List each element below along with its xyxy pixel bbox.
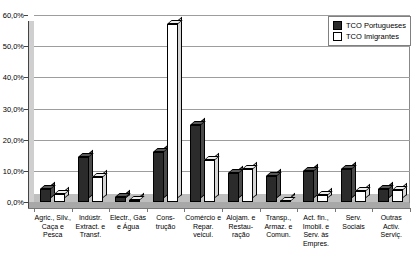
bar-face <box>40 189 51 202</box>
bar-face <box>190 125 201 202</box>
bar-face <box>378 189 389 202</box>
bar-face <box>204 160 215 202</box>
bar-cap <box>280 197 296 201</box>
x-axis-tick-label: Comércio e Repar. veicul. <box>182 214 224 240</box>
legend-label: TCO Imigrantes <box>346 32 399 41</box>
bar-cap <box>129 196 145 200</box>
x-axis-line <box>28 208 410 209</box>
y-axis-tick <box>24 15 28 16</box>
bar <box>280 201 291 202</box>
x-axis-tick-label: Alojam. e Restau- ração <box>220 214 262 240</box>
legend-item: TCO Imigrantes <box>333 31 406 42</box>
bar <box>266 176 277 202</box>
bar <box>228 173 239 202</box>
bar <box>167 24 178 202</box>
x-axis-tick-label: Act. fin., Imobil. e Serv. às Empres. <box>295 214 337 248</box>
x-axis-tick-label: Cons- trução <box>145 214 187 231</box>
legend-swatch-icon <box>333 32 342 41</box>
bar <box>204 160 215 202</box>
bar-face <box>228 173 239 202</box>
y-axis-tick-label: 0,0% <box>7 198 24 207</box>
y-axis-line <box>28 21 29 209</box>
y-axis-tick-label: 20,0% <box>3 135 24 144</box>
bar-group <box>40 15 78 202</box>
y-axis-tick <box>24 140 28 141</box>
x-axis-tick <box>109 208 110 212</box>
x-axis-tick <box>260 208 261 212</box>
bar <box>317 195 328 202</box>
bar <box>54 194 65 202</box>
x-axis-tick <box>147 208 148 212</box>
bar-face <box>92 177 103 202</box>
x-axis-tick <box>410 208 411 212</box>
bar <box>341 169 352 202</box>
bar <box>392 190 403 202</box>
x-axis-tick-label: Transp., Armaz. e Comun. <box>258 214 300 240</box>
bar-group <box>228 15 266 202</box>
y-axis-tick <box>24 202 28 203</box>
bar-face <box>341 169 352 202</box>
y-axis-tick-label: 60,0% <box>3 11 24 20</box>
bar <box>242 169 253 202</box>
bar <box>303 171 314 202</box>
bar <box>92 177 103 202</box>
bar-face <box>78 157 89 202</box>
bar-face <box>54 194 65 202</box>
y-axis-tick <box>24 77 28 78</box>
bar-group <box>266 15 304 202</box>
bar <box>153 152 164 202</box>
y-axis-tick <box>24 46 28 47</box>
bar-face <box>115 197 126 202</box>
chart-legend: TCO Portugueses TCO Imigrantes <box>328 16 411 46</box>
x-axis-tick-label: Electr., Gás e Água <box>107 214 149 231</box>
x-axis-tick <box>222 208 223 212</box>
bar <box>378 189 389 202</box>
bar-side <box>178 17 182 198</box>
y-axis-tick-label: 40,0% <box>3 73 24 82</box>
bar-face <box>392 190 403 202</box>
bar-face <box>317 195 328 202</box>
bar-group <box>190 15 228 202</box>
bar-face <box>153 152 164 202</box>
bar-face <box>129 200 140 202</box>
bar-group <box>78 15 116 202</box>
y-axis-tick-label: 10,0% <box>3 166 24 175</box>
x-axis-tick <box>372 208 373 212</box>
bar-side <box>215 152 219 198</box>
x-axis-tick-label: Outras Activ. Serviç. <box>370 214 412 240</box>
bar-face <box>303 171 314 202</box>
x-axis-tick-label: Serv. Sociais <box>333 214 375 231</box>
bar <box>355 191 366 202</box>
bar-chart: 0,0%10,0%20,0%30,0%40,0%50,0%60,0% Agric… <box>0 0 418 253</box>
bar-face <box>167 24 178 202</box>
bar-group <box>115 15 153 202</box>
y-axis-tick <box>24 171 28 172</box>
x-axis-tick <box>184 208 185 212</box>
bar <box>40 189 51 202</box>
y-axis-tick <box>24 109 28 110</box>
bar <box>129 200 140 202</box>
y-axis-tick-label: 50,0% <box>3 42 24 51</box>
x-axis-tick <box>335 208 336 212</box>
y-axis-tick-label: 30,0% <box>3 104 24 113</box>
bar-face <box>266 176 277 202</box>
x-axis-tick <box>297 208 298 212</box>
x-axis-tick <box>72 208 73 212</box>
x-axis-tick-label: Indústr. Extract. e Transf. <box>70 214 112 240</box>
bar-group <box>153 15 191 202</box>
bar <box>115 197 126 202</box>
legend-label: TCO Portugueses <box>346 21 406 30</box>
legend-item: TCO Portugueses <box>333 20 406 31</box>
legend-swatch-icon <box>333 21 342 30</box>
bar <box>190 125 201 202</box>
bar-face <box>355 191 366 202</box>
bar <box>78 157 89 202</box>
x-axis-tick-label: Agric., Silv., Caça e Pesca <box>32 214 74 240</box>
bar-side <box>366 184 370 198</box>
x-axis-tick <box>34 208 35 212</box>
bar-face <box>242 169 253 202</box>
